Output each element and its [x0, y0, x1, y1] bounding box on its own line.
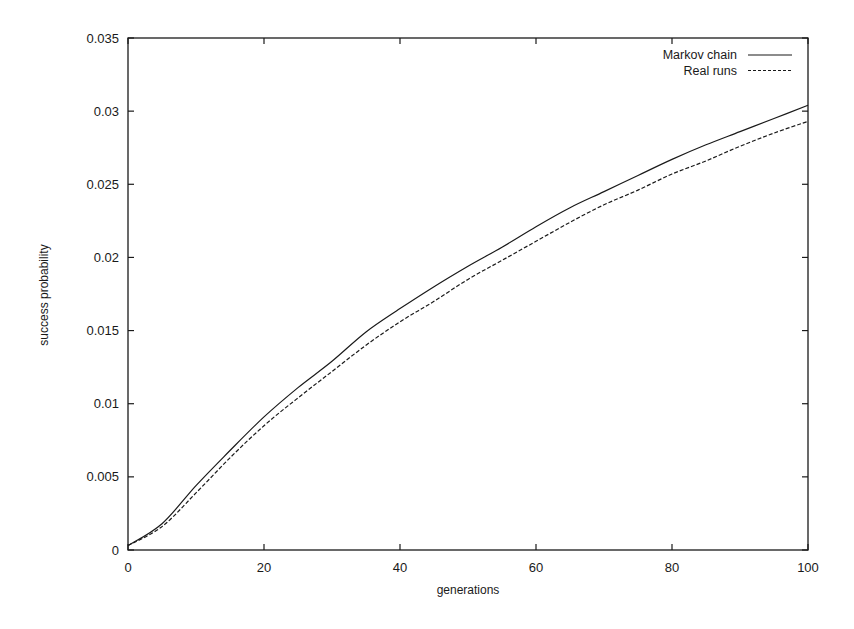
y-axis-ticks: 00.0050.010.0150.020.0250.030.035	[86, 31, 808, 558]
legend-label: Real runs	[684, 64, 738, 78]
legend-label: Markov chain	[663, 48, 737, 62]
plot-frame	[128, 38, 808, 550]
y-tick-label: 0.01	[94, 396, 119, 411]
y-tick-label: 0.015	[86, 323, 119, 338]
y-tick-label: 0.005	[86, 469, 119, 484]
series-markov-chain	[128, 105, 808, 545]
line-chart: 020406080100 00.0050.010.0150.020.0250.0…	[0, 0, 854, 629]
y-tick-label: 0.035	[86, 31, 119, 46]
series-real-runs	[128, 121, 808, 545]
plot-border	[128, 38, 808, 550]
x-tick-label: 60	[529, 560, 543, 575]
x-tick-label: 20	[257, 560, 271, 575]
x-tick-label: 0	[124, 560, 131, 575]
x-tick-label: 80	[665, 560, 679, 575]
x-axis-label: generations	[437, 583, 500, 597]
y-tick-label: 0.03	[94, 104, 119, 119]
x-tick-label: 40	[393, 560, 407, 575]
y-tick-label: 0	[112, 543, 119, 558]
series-layer	[128, 105, 808, 545]
y-tick-label: 0.025	[86, 177, 119, 192]
x-axis-ticks: 020406080100	[124, 38, 818, 575]
y-axis-label: success probability	[37, 244, 51, 345]
legend: Markov chainReal runs	[663, 48, 792, 78]
y-tick-label: 0.02	[94, 250, 119, 265]
x-tick-label: 100	[797, 560, 819, 575]
